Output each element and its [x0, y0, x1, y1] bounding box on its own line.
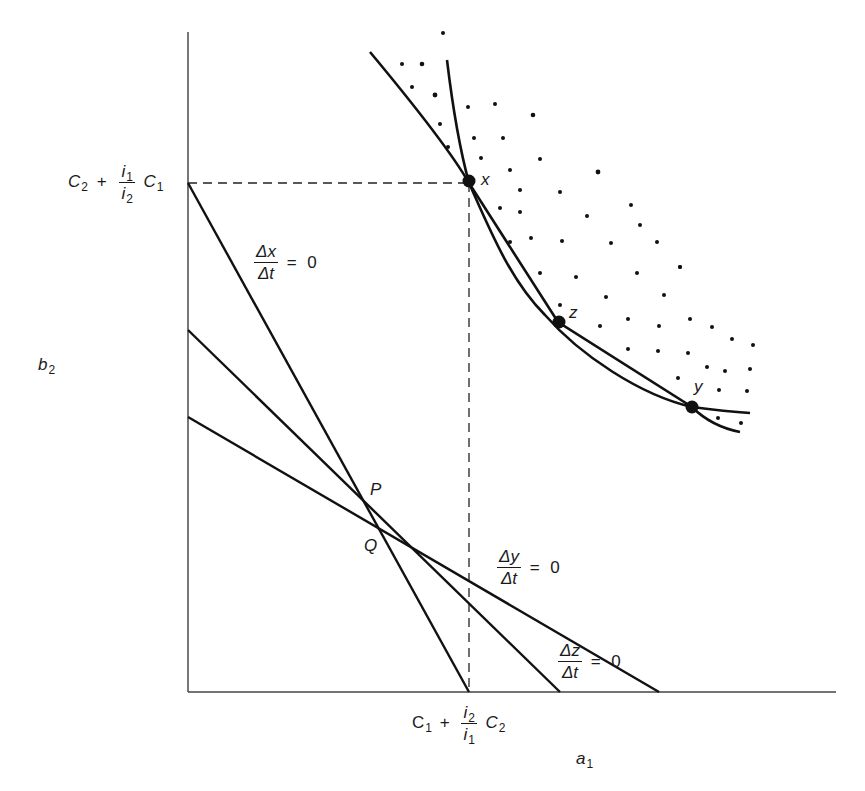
- dy-rhs: 0: [550, 558, 559, 577]
- x-axis-label-sub: 1: [586, 757, 593, 771]
- y-int-fraction: i1 i2: [119, 163, 134, 202]
- x-int-num: i: [463, 703, 467, 722]
- dotted-region: [400, 31, 755, 425]
- y-int-plus: +: [97, 172, 107, 191]
- y-int-den: i: [121, 184, 125, 203]
- point-z-label: z: [569, 304, 578, 321]
- dy-den: Δt: [497, 568, 521, 587]
- x-int-c2: C: [486, 713, 498, 732]
- x-axis-label-base: a: [576, 749, 585, 768]
- dz-eq: =: [591, 652, 601, 671]
- dx-eq: =: [287, 253, 297, 272]
- isocline-dx-label: ΔxΔt = 0: [250, 243, 317, 282]
- figure-caption-truncated: [30, 778, 830, 791]
- isocline-dx: [188, 183, 469, 692]
- isocline-dz-label: ΔzΔt = 0: [554, 642, 621, 681]
- dy-eq: =: [530, 558, 540, 577]
- dx-den: Δt: [254, 263, 278, 282]
- y-int-c2: C: [68, 172, 80, 191]
- dz-rhs: 0: [611, 652, 620, 671]
- dz-den: Δt: [558, 662, 582, 681]
- y-int-num: i: [121, 162, 125, 181]
- x-int-fraction: i2 i1: [461, 704, 476, 743]
- y-int-num-sub: 1: [126, 170, 133, 184]
- y-intercept-label: C2 + i1 i2 C1: [68, 163, 164, 202]
- point-Q-label: Q: [364, 537, 377, 554]
- x-int-c1-sub: 1: [425, 721, 432, 735]
- point-y-label: y: [694, 378, 703, 395]
- isocline-dy: [188, 330, 560, 692]
- x-axis-label: a1: [576, 750, 593, 767]
- y-axis-label: b2: [38, 356, 55, 373]
- y-int-c1: C: [144, 172, 156, 191]
- y-int-c1-sub: 1: [157, 180, 164, 194]
- dz-num: Δz: [558, 642, 582, 662]
- point-z-marker: [553, 316, 566, 329]
- y-int-den-sub: 2: [126, 192, 133, 206]
- x-int-den: i: [463, 725, 467, 744]
- point-P-label: P: [370, 481, 381, 498]
- dx-num: Δx: [254, 243, 278, 263]
- diagram-canvas: [0, 0, 865, 791]
- x-int-den-sub: 1: [468, 733, 475, 747]
- point-y-marker: [686, 401, 699, 414]
- x-int-plus: +: [440, 713, 450, 732]
- x-int-c2-sub: 2: [499, 721, 506, 735]
- x-int-num-sub: 2: [468, 711, 475, 725]
- y-axis-label-sub: 2: [48, 363, 55, 377]
- dx-rhs: 0: [307, 253, 316, 272]
- x-intercept-label: C1 + i2 i1 C2: [412, 704, 506, 743]
- dy-num: Δy: [497, 548, 521, 568]
- isocline-dy-label: ΔyΔt = 0: [493, 548, 560, 587]
- y-axis-label-base: b: [38, 355, 47, 374]
- x-int-c1: C: [412, 713, 424, 732]
- point-x-label: x: [481, 171, 490, 188]
- smooth-frontier-curve: [370, 52, 750, 413]
- y-int-c2-sub: 2: [81, 180, 88, 194]
- point-x-marker: [463, 175, 476, 188]
